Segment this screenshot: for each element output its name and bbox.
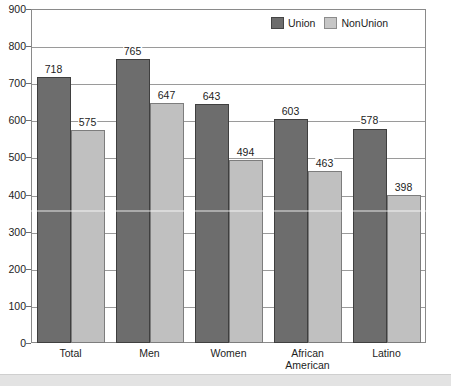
bar-value-label: 647 [157,90,177,101]
legend-item-union[interactable]: Union [271,17,315,29]
legend-item-nonunion[interactable]: NonUnion [324,17,388,29]
union-swatch [271,17,284,29]
y-tick-label: 800 [0,41,26,52]
bar-nonunion-african-american [308,171,342,343]
chart-legend: UnionNonUnion [271,17,388,29]
y-tick-label: 600 [0,115,26,126]
bar-value-label: 398 [394,182,414,193]
bar-value-label: 718 [44,64,64,75]
bar-nonunion-latino [387,195,421,343]
legend-label: NonUnion [341,18,388,29]
x-category-label: Total [59,347,81,359]
bar-value-label: 643 [202,91,222,102]
bar-union-women [195,104,229,343]
bar-value-label: 575 [78,117,98,128]
y-tick-label: 500 [0,152,26,163]
bar-value-label: 603 [281,106,301,117]
bar-union-latino [353,129,387,344]
x-category-label: Men [139,347,159,359]
bars-layer [31,9,426,343]
y-tick-label: 200 [0,264,26,275]
bar-union-african-american [274,119,308,343]
bar-union-total [37,77,71,343]
y-tick-mark [26,343,31,344]
page-edge-band [0,374,451,386]
bar-value-label: 494 [236,147,256,158]
x-category-label: Latino [372,347,401,359]
y-tick-label: 700 [0,78,26,89]
y-tick-label: 900 [0,4,26,15]
legend-label: Union [288,18,315,29]
x-category-label: AfricanAmerican [285,347,329,371]
bar-nonunion-total [71,130,105,343]
bar-union-men [116,59,150,343]
y-tick-label: 400 [0,189,26,200]
y-tick-label: 100 [0,301,26,312]
nonunion-swatch [324,17,337,29]
bar-value-label: 578 [360,115,380,126]
y-tick-label: 300 [0,226,26,237]
bar-nonunion-women [229,160,263,343]
bar-value-label: 765 [123,46,143,57]
bar-value-label: 463 [315,158,335,169]
x-category-label: Women [211,347,247,359]
bar-nonunion-men [150,103,184,343]
y-tick-label: 0 [0,338,26,349]
